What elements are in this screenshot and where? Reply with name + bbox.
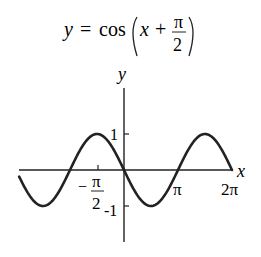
x-tick-label-2pi: 2π: [221, 180, 239, 199]
x-tick-sign: −: [78, 178, 87, 195]
plot-area: y x 1 -1 − π 2 π 2π: [0, 0, 261, 257]
y-tick-label-1: 1: [110, 126, 118, 143]
x-tick-num: π: [92, 172, 101, 191]
x-tick-label-pi: π: [173, 180, 182, 199]
x-axis-label: x: [236, 161, 245, 181]
x-tick-den: 2: [92, 194, 101, 213]
y-tick-label-neg1: -1: [104, 202, 117, 219]
y-axis-label: y: [116, 64, 126, 84]
